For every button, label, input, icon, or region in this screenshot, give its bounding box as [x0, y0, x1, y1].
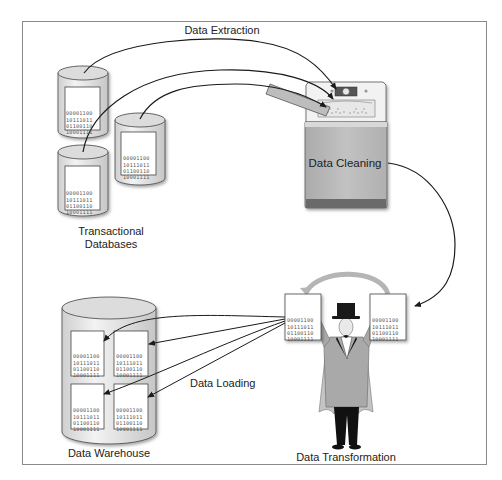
label-transactional: Transactional: [78, 225, 144, 237]
binary-data-text: 00001100101110110110011010001111: [287, 305, 314, 355]
binary-data-text: 00001100101110110110011010001111: [372, 305, 399, 355]
label-data-loading: Data Loading: [190, 377, 255, 389]
label-data-warehouse: Data Warehouse: [68, 447, 150, 459]
binary-data-text: 00001100101110110110011010001111: [123, 143, 150, 193]
binary-data-text: 00001100101110110110011010001111: [73, 395, 100, 445]
binary-data-text: 00001100101110110110011010001111: [116, 341, 143, 391]
etl-diagram: 00001100101110110110011010001111 0000110…: [0, 0, 502, 480]
label-data-cleaning: Data Cleaning: [309, 157, 382, 169]
washing-machine-icon: [305, 82, 387, 208]
binary-data-text: 00001100101110110110011010001111: [66, 178, 93, 228]
label-data-transformation: Data Transformation: [296, 451, 396, 463]
cleaning-to-transform-arrow: [388, 163, 455, 306]
label-data-extraction: Data Extraction: [184, 24, 259, 36]
binary-data-text: 00001100101110110110011010001111: [66, 98, 93, 148]
label-databases: Databases: [85, 238, 138, 250]
binary-data-text: 00001100101110110110011010001111: [73, 341, 100, 391]
binary-data-text: 00001100101110110110011010001111: [116, 395, 143, 445]
